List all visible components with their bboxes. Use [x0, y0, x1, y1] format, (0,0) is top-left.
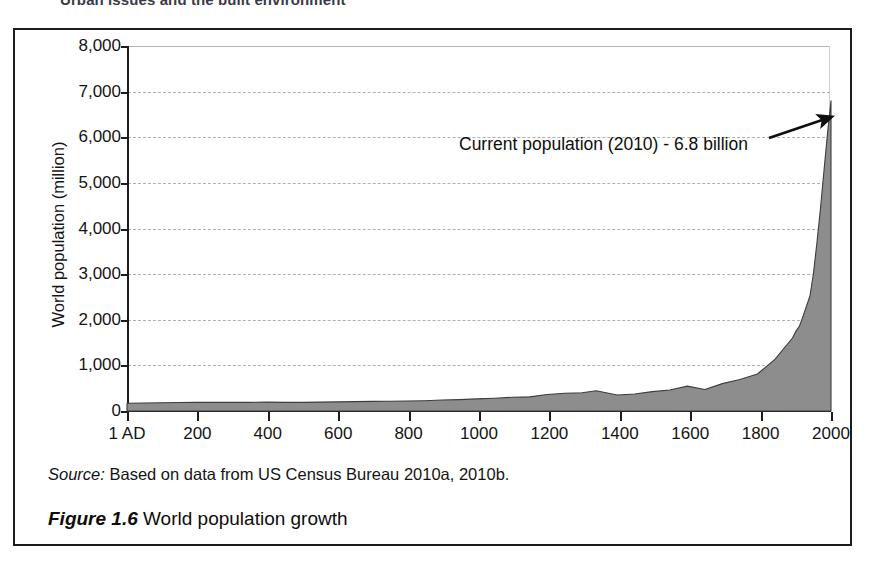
x-axis-tick-label: 1400 — [580, 424, 660, 444]
figure-caption: Figure 1.6 World population growth — [48, 508, 348, 530]
figure-page: Urban issues and the built environment W… — [0, 0, 875, 584]
x-axis-tick-mark — [268, 412, 270, 421]
figure-border-box: World population (million) 8,0007,0006,0… — [13, 28, 852, 546]
x-axis-tick-label: 2000 — [791, 424, 871, 444]
source-line: Source: Based on data from US Census Bur… — [48, 465, 509, 484]
y-axis-labels: 8,0007,0006,0005,0004,0003,0002,0001,000… — [29, 30, 121, 440]
x-axis-tick-mark — [549, 412, 551, 421]
x-axis-tick-mark — [761, 412, 763, 421]
x-axis-tick-mark — [197, 412, 199, 421]
figure-caption-text: World population growth — [143, 508, 348, 529]
y-axis-tick-label: 8,000 — [35, 36, 121, 56]
x-axis-tick-label: 1200 — [509, 424, 589, 444]
population-chart: World population (million) 8,0007,0006,0… — [15, 30, 854, 440]
y-axis-tick-label: 0 — [35, 401, 121, 421]
x-axis-tick-label: 400 — [228, 424, 308, 444]
x-axis-tick-mark — [831, 412, 833, 421]
y-axis-tick-label: 1,000 — [35, 355, 121, 375]
source-label: Source: — [48, 465, 105, 483]
x-axis-tick-label: 1 AD — [87, 424, 167, 444]
population-area-series — [127, 46, 831, 411]
x-axis-tick-mark — [479, 412, 481, 421]
running-head: Urban issues and the built environment — [60, 0, 480, 5]
figure-number: Figure 1.6 — [48, 508, 138, 529]
y-axis-tick-label: 6,000 — [35, 127, 121, 147]
x-axis-tick-label: 800 — [369, 424, 449, 444]
y-axis-tick-label: 4,000 — [35, 219, 121, 239]
x-axis-tick-mark — [338, 412, 340, 421]
y-axis-tick-label: 3,000 — [35, 264, 121, 284]
y-axis-tick-label: 5,000 — [35, 173, 121, 193]
annotation-arrow-icon — [767, 108, 847, 148]
current-population-annotation: Current population (2010) - 6.8 billion — [459, 134, 748, 155]
x-axis-tick-mark — [409, 412, 411, 421]
source-text: Based on data from US Census Bureau 2010… — [109, 465, 509, 483]
x-axis-tick-label: 600 — [298, 424, 378, 444]
x-axis-tick-label: 1800 — [721, 424, 801, 444]
x-axis-tick-label: 1600 — [650, 424, 730, 444]
x-axis-tick-mark — [690, 412, 692, 421]
x-axis-tick-mark — [127, 412, 129, 421]
x-axis-tick-label: 200 — [157, 424, 237, 444]
x-axis-tick-mark — [620, 412, 622, 421]
x-axis-tick-label: 1000 — [439, 424, 519, 444]
y-axis-tick-label: 7,000 — [35, 82, 121, 102]
y-axis-tick-label: 2,000 — [35, 310, 121, 330]
